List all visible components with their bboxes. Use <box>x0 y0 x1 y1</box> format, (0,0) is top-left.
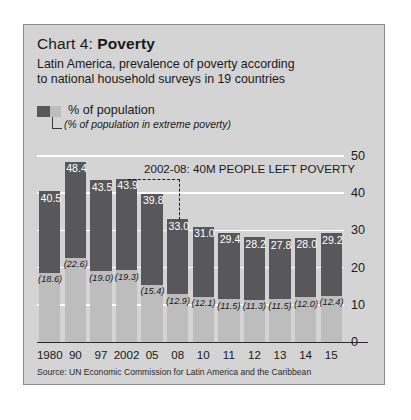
bar-column[interactable]: 28.0 <box>295 238 316 342</box>
title-main: Poverty <box>97 35 155 52</box>
bar-column[interactable]: 48.4 <box>65 162 86 342</box>
extreme-poverty-value-label: (11.3) <box>243 301 266 311</box>
bar-total-poverty[interactable]: 40.5 <box>39 191 60 272</box>
x-axis-tick-label: 10 <box>197 348 210 361</box>
annotation-bracket <box>128 179 180 221</box>
y-axis-tick-label: 30 <box>351 223 365 237</box>
page-title: Chart 4: Poverty <box>37 35 155 53</box>
extreme-poverty-value-label: (11.5) <box>268 301 291 311</box>
legend-swatch-extreme-poverty <box>50 106 61 117</box>
title-prefix: Chart 4: <box>37 35 97 52</box>
x-axis-tick-label: 12 <box>248 348 261 361</box>
bar-column[interactable]: 43.5 <box>90 180 111 342</box>
x-axis-tick-label: 1980 <box>37 348 63 361</box>
bar-column[interactable]: 27.8 <box>269 239 290 342</box>
subtitle-line-1: Latin America, prevalence of poverty acc… <box>37 57 295 72</box>
extreme-poverty-value-label: (19.0) <box>89 273 113 283</box>
chart-subtitle: Latin America, prevalence of poverty acc… <box>37 57 295 86</box>
gridline <box>37 155 344 157</box>
extreme-poverty-value-label: (12.1) <box>192 298 216 308</box>
bar-column[interactable]: 31.0 <box>193 227 214 342</box>
plot-area: 2002-08: 40M PEOPLE LEFT POVERTY 0102030… <box>37 156 344 342</box>
bar-value-label: 27.8 <box>271 239 292 251</box>
bar-value-label: 28.2 <box>245 238 266 250</box>
extreme-poverty-value-label: (12.0) <box>294 299 318 309</box>
source-note: Source: UN Economic Commission for Latin… <box>37 367 311 377</box>
chart-panel: Chart 4: Poverty Latin America, prevalen… <box>23 24 385 385</box>
bar-total-poverty[interactable]: 27.8 <box>269 239 290 300</box>
extreme-poverty-value-label: (12.9) <box>166 296 190 306</box>
bar-column[interactable]: 29.4 <box>218 233 239 342</box>
legend-label-population: % of population <box>68 103 155 117</box>
extreme-poverty-value-label: (11.5) <box>217 301 240 311</box>
bar-value-label: 29.2 <box>322 234 343 246</box>
bar-value-label: 29.4 <box>220 233 241 245</box>
extreme-poverty-value-label: (15.4) <box>140 286 164 296</box>
bar-total-poverty[interactable]: 29.2 <box>321 233 342 295</box>
bar-total-poverty[interactable]: 33.0 <box>167 219 188 294</box>
extreme-poverty-value-label: (19.3) <box>115 272 139 282</box>
y-axis-tick-label: 40 <box>351 186 365 200</box>
bar-total-poverty[interactable]: 43.5 <box>90 180 111 271</box>
x-axis-tick-label: 08 <box>171 348 184 361</box>
bar-value-label: 33.0 <box>169 220 190 232</box>
y-axis-tick-label: 0 <box>351 335 358 349</box>
bar-total-poverty[interactable]: 48.4 <box>65 162 86 258</box>
annotation-label: 2002-08: 40M PEOPLE LEFT POVERTY <box>144 162 355 175</box>
bar-column[interactable]: 29.2 <box>321 233 342 342</box>
x-axis-tick-label: 13 <box>274 348 287 361</box>
bar-total-poverty[interactable]: 31.0 <box>193 227 214 297</box>
x-axis-tick-label: 15 <box>325 348 338 361</box>
x-axis-tick-label: 05 <box>146 348 159 361</box>
bar-value-label: 40.5 <box>41 192 62 204</box>
y-axis-tick-label: 20 <box>351 261 365 275</box>
y-axis-tick-label: 10 <box>351 298 365 312</box>
bar-value-label: 43.5 <box>92 181 113 193</box>
bar-column[interactable]: 33.0 <box>167 219 188 342</box>
bar-total-poverty[interactable]: 28.2 <box>244 237 265 300</box>
bar-column[interactable]: 28.2 <box>244 237 265 342</box>
bar-column[interactable]: 40.5 <box>39 191 60 342</box>
bar-value-label: 48.4 <box>66 162 87 174</box>
subtitle-line-2: to national household surveys in 19 coun… <box>37 72 295 87</box>
y-axis-tick-label: 50 <box>351 149 365 163</box>
bar-total-poverty[interactable]: 29.4 <box>218 233 239 300</box>
bar-value-label: 28.0 <box>296 238 317 250</box>
x-axis-line <box>37 342 368 343</box>
x-axis-tick-label: 14 <box>299 348 312 361</box>
x-axis-tick-label: 97 <box>95 348 108 361</box>
legend-connector-line <box>52 117 62 129</box>
extreme-poverty-value-label: (22.6) <box>64 259 88 269</box>
x-axis-tick-label: 90 <box>69 348 82 361</box>
bar-value-label: 31.0 <box>194 227 215 239</box>
bar-total-poverty[interactable]: 28.0 <box>295 238 316 298</box>
chart-screenshot: Chart 4: Poverty Latin America, prevalen… <box>0 0 411 420</box>
extreme-poverty-value-label: (12.4) <box>320 297 344 307</box>
x-axis-tick-label: 11 <box>223 348 235 361</box>
x-axis-tick-label: 2002 <box>114 348 140 361</box>
legend-label-extreme-poverty: (% of population in extreme poverty) <box>64 119 231 130</box>
legend-swatch-population <box>37 106 50 117</box>
extreme-poverty-value-label: (18.6) <box>38 274 62 284</box>
